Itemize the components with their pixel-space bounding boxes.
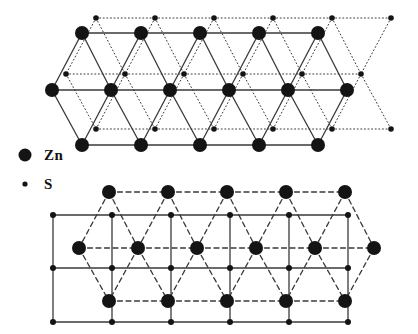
zn-atom	[134, 138, 148, 152]
s-atom	[211, 126, 217, 132]
s-atom	[270, 126, 276, 132]
s-atom	[345, 319, 351, 325]
zn-atom	[190, 241, 204, 255]
s-atom	[93, 126, 99, 132]
s-atom	[181, 71, 187, 77]
zn-atom	[102, 294, 116, 308]
s-atom	[345, 265, 351, 271]
s-atom	[286, 265, 292, 271]
s-atom	[211, 15, 217, 21]
zn-atom	[338, 185, 352, 199]
s-atom	[109, 319, 115, 325]
zn-atom	[134, 26, 148, 40]
s-atom	[227, 319, 233, 325]
zn-atom	[338, 294, 352, 308]
s-atom	[63, 71, 69, 77]
s-atom	[345, 212, 351, 218]
s-atom	[168, 265, 174, 271]
s-atom	[286, 212, 292, 218]
s-atom	[109, 212, 115, 218]
zn-atom	[72, 241, 86, 255]
zn-atom	[163, 83, 177, 97]
zn-atom	[311, 138, 325, 152]
zn-atom	[367, 241, 381, 255]
s-atom	[388, 126, 394, 132]
zn-atom	[222, 83, 236, 97]
s-atom	[358, 71, 364, 77]
s-atom	[152, 126, 158, 132]
s-atom	[299, 71, 305, 77]
s-atom	[227, 265, 233, 271]
legend-s-label: S	[44, 176, 53, 193]
zn-atom	[252, 138, 266, 152]
s-atom	[122, 71, 128, 77]
zns-lattice-figure	[0, 0, 418, 334]
s-atom	[240, 71, 246, 77]
zn-atom	[220, 294, 234, 308]
zn-atom	[161, 294, 175, 308]
s-atom	[168, 319, 174, 325]
s-atom	[329, 15, 335, 21]
zn-atom	[131, 241, 145, 255]
zn-atom	[102, 185, 116, 199]
zn-atom	[75, 138, 89, 152]
zn-atom	[308, 241, 322, 255]
s-atom	[388, 15, 394, 21]
legend-s-marker	[22, 181, 27, 186]
s-atom	[109, 265, 115, 271]
zn-atom	[279, 294, 293, 308]
s-atom	[50, 212, 56, 218]
s-atom	[152, 15, 158, 21]
s-atom	[329, 126, 335, 132]
zn-atom	[161, 185, 175, 199]
s-atom	[50, 319, 56, 325]
s-atom	[227, 212, 233, 218]
s-atom	[286, 319, 292, 325]
s-atom	[50, 265, 56, 271]
s-atom	[270, 15, 276, 21]
legend-zn-marker	[19, 149, 32, 162]
zn-atom	[193, 26, 207, 40]
zn-atom	[252, 26, 266, 40]
zn-atom	[281, 83, 295, 97]
zn-atom	[311, 26, 325, 40]
s-atom	[93, 15, 99, 21]
zn-atom	[104, 83, 118, 97]
zn-atom	[45, 83, 59, 97]
zn-atom	[249, 241, 263, 255]
legend-zn-label: Zn	[44, 147, 63, 164]
zn-atom	[193, 138, 207, 152]
zn-atom	[340, 83, 354, 97]
s-atom	[168, 212, 174, 218]
zn-atom	[220, 185, 234, 199]
zn-atom	[75, 26, 89, 40]
zn-atom	[279, 185, 293, 199]
